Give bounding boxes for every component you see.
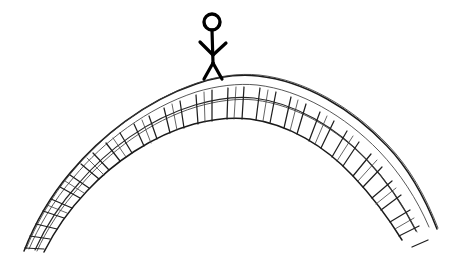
arch-rib [372,181,392,198]
arch-band-second [29,84,429,249]
arch-rib [412,240,428,247]
arch-rib-secondary [87,158,104,175]
arch-band-intrados [44,118,402,252]
arch-rib [227,88,228,119]
stick-figure-head [204,14,220,30]
arch-rib [256,88,260,120]
arch-rib [297,104,306,134]
arch-rib [353,154,371,176]
arch-ribs-secondary [47,87,414,229]
stick-figure-torso [212,30,213,63]
arch-rib [164,108,170,133]
arch-rib [363,167,382,187]
arch-rib-secondary [234,87,236,119]
arch-rib-secondary [395,218,414,229]
arch-ribs [25,87,428,249]
arch-bridge [24,74,438,252]
stick-figure-leg-right [213,63,222,79]
arch-arc-second [29,84,429,249]
sketch-canvas: Stick figure standing on a hand-drawn ar… [0,0,458,264]
arch-rib [196,95,198,124]
arch-rib [284,97,291,128]
arch-rib [25,248,44,249]
arch-rib [242,87,244,119]
stick-figure-leg-left [204,63,213,79]
arch-rib-secondary [172,104,177,130]
arch-rib-secondary [290,100,298,131]
arch-rib [180,101,184,128]
stick-figure-arm-right [213,43,226,55]
arch-arc-inner [44,118,402,252]
arch-rib [270,92,276,123]
arch-rib [134,124,144,146]
arch-band-extrados [24,74,438,251]
arch-rib [390,210,410,222]
arch-rib-secondary [204,92,205,122]
arch-rib-secondary [358,160,377,181]
arch-rib-secondary [263,90,268,121]
stick-figure [200,14,226,79]
arch-bridge-sketch: A freehand ink sketch of a curved masonr… [0,0,458,264]
